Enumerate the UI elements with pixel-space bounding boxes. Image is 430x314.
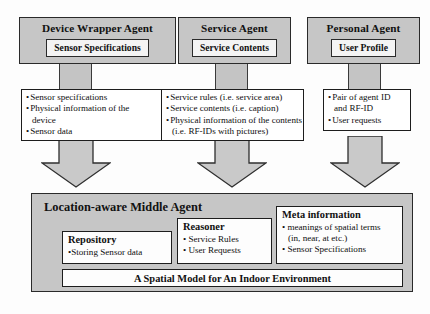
agent-box-service[interactable]: Service Agent Service Contents xyxy=(178,17,291,64)
list-item: Service contents (i.e. caption) xyxy=(166,103,300,114)
agent-box-personal[interactable]: Personal Agent User Profile xyxy=(307,17,420,64)
list-item: Service rules (i.e. service area) xyxy=(166,92,300,103)
agent-subbox-service-contents[interactable]: Service Contents xyxy=(192,39,277,57)
agent-title: Device Wrapper Agent xyxy=(42,21,153,35)
spatial-model-bar[interactable]: A Spatial Model for An Indoor Environmen… xyxy=(62,269,403,287)
list-item: Pair of agent ID xyxy=(328,92,407,103)
meta-information-item: • Sensor Specifications xyxy=(282,244,398,255)
list-item: Sensor data xyxy=(26,126,171,137)
meta-information-item: (in, near, at etc.) xyxy=(282,233,398,244)
reasoner-heading: Reasoner xyxy=(183,221,267,234)
agent-subbox-sensor-specifications[interactable]: Sensor Specifications xyxy=(46,39,148,57)
arrow-personal-agent-icon xyxy=(330,136,400,188)
list-item: (i.e. RF-IDs with pictures) xyxy=(166,126,300,137)
meta-information-box[interactable]: Meta information • meanings of spatial t… xyxy=(276,206,403,264)
list-item: Physical information of the contents xyxy=(166,115,300,126)
arrow-service-agent-icon xyxy=(197,136,267,188)
agent-box-device-wrapper[interactable]: Device Wrapper Agent Sensor Specificatio… xyxy=(19,17,176,64)
list-item: device xyxy=(26,115,171,126)
list-item: User requests xyxy=(328,115,407,126)
diagram-canvas: Device Wrapper Agent Sensor Specificatio… xyxy=(0,0,430,314)
arrow-device-wrapper-icon xyxy=(41,136,111,188)
connector-stub-service xyxy=(215,64,248,89)
list-box-service: Service rules (i.e. service area) Servic… xyxy=(161,89,304,141)
agent-subbox-user-profile[interactable]: User Profile xyxy=(331,39,396,57)
reasoner-item: • Service Rules xyxy=(183,234,267,245)
repository-item: •Storing Sensor data xyxy=(68,247,167,258)
list-box-device-wrapper: Sensor specifications Physical informati… xyxy=(21,89,175,141)
list-item: and RF-ID xyxy=(328,103,407,114)
repository-heading: Repository xyxy=(68,234,167,247)
reasoner-item: • User Requests xyxy=(183,245,267,256)
list-item: Sensor specifications xyxy=(26,92,171,103)
list-box-personal: Pair of agent ID and RF-ID User requests xyxy=(323,89,411,131)
meta-information-item: • meanings of spatial terms xyxy=(282,222,398,233)
agent-title: Service Agent xyxy=(201,21,268,35)
list-item: Physical information of the xyxy=(26,103,171,114)
spatial-model-label: A Spatial Model for An Indoor Environmen… xyxy=(134,273,331,284)
repository-box[interactable]: Repository •Storing Sensor data xyxy=(62,231,172,264)
agent-title: Personal Agent xyxy=(327,21,401,35)
reasoner-box[interactable]: Reasoner • Service Rules • User Requests xyxy=(177,218,272,264)
connector-stub-personal xyxy=(348,64,381,89)
connector-stub-device-wrapper xyxy=(59,64,92,89)
meta-information-heading: Meta information xyxy=(282,209,398,222)
middle-agent-title: Location-aware Middle Agent xyxy=(44,200,202,215)
